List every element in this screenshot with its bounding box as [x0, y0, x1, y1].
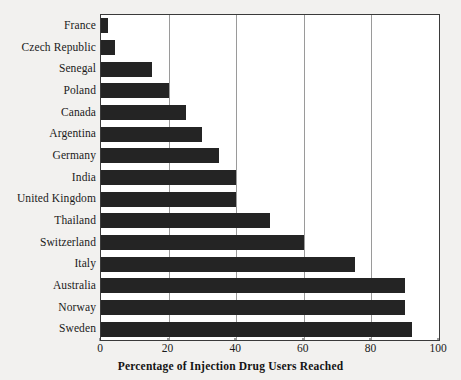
- bar-row: [101, 322, 439, 337]
- x-tick-label: 100: [429, 341, 446, 355]
- plot-area: [100, 14, 440, 341]
- bar: [101, 83, 169, 98]
- bar-row: [101, 62, 439, 77]
- x-axis-ticks: 020406080100: [100, 341, 438, 357]
- bar: [101, 235, 304, 250]
- category-label: Poland: [0, 84, 96, 96]
- bar-row: [101, 257, 439, 272]
- category-label: Thailand: [0, 214, 96, 226]
- category-label: Czech Republic: [0, 41, 96, 53]
- x-tick-label: 60: [297, 341, 309, 355]
- category-axis-labels: FranceCzech RepublicSenegalPolandCanadaA…: [0, 14, 96, 339]
- category-label: Senegal: [0, 62, 96, 74]
- bar-row: [101, 192, 439, 207]
- category-label: India: [0, 171, 96, 183]
- x-tick-label: 40: [229, 341, 241, 355]
- category-label: Sweden: [0, 322, 96, 334]
- bar-row: [101, 148, 439, 163]
- category-label: Norway: [0, 301, 96, 313]
- bar-row: [101, 235, 439, 250]
- bar: [101, 322, 412, 337]
- bar-row: [101, 170, 439, 185]
- bar-row: [101, 127, 439, 142]
- bar: [101, 278, 405, 293]
- bar: [101, 192, 236, 207]
- x-tick-label: 20: [162, 341, 174, 355]
- bar: [101, 127, 202, 142]
- bar-row: [101, 40, 439, 55]
- bar-row: [101, 105, 439, 120]
- category-label: Argentina: [0, 127, 96, 139]
- category-label: Switzerland: [0, 236, 96, 248]
- bar: [101, 257, 355, 272]
- bar: [101, 170, 236, 185]
- bar-row: [101, 18, 439, 33]
- bar: [101, 300, 405, 315]
- x-tick-label: 0: [97, 341, 103, 355]
- bars-layer: [101, 15, 439, 340]
- category-label: Italy: [0, 257, 96, 269]
- category-label: France: [0, 19, 96, 31]
- x-tick-label: 80: [365, 341, 377, 355]
- bar: [101, 18, 108, 33]
- bar-row: [101, 300, 439, 315]
- bar: [101, 40, 115, 55]
- category-label: United Kingdom: [0, 192, 96, 204]
- bar: [101, 62, 152, 77]
- x-axis-title: Percentage of Injection Drug Users Reach…: [0, 360, 461, 372]
- bar: [101, 105, 186, 120]
- bar-row: [101, 213, 439, 228]
- category-label: Canada: [0, 106, 96, 118]
- bar-chart-figure: FranceCzech RepublicSenegalPolandCanadaA…: [0, 0, 461, 380]
- bar-row: [101, 83, 439, 98]
- category-label: Australia: [0, 279, 96, 291]
- bar-row: [101, 278, 439, 293]
- bar: [101, 148, 219, 163]
- bar: [101, 213, 270, 228]
- category-label: Germany: [0, 149, 96, 161]
